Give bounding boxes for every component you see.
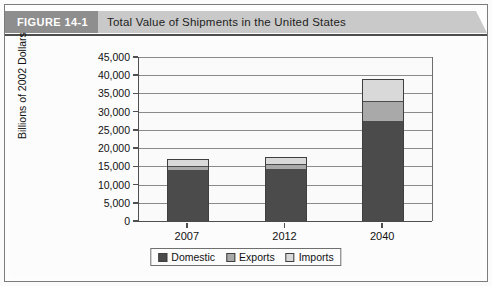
legend-item-imports[interactable]: Imports (286, 251, 334, 263)
x-axis-tick-mark (284, 223, 286, 228)
y-axis-tick-label: 30,000 (98, 106, 130, 118)
legend-item-exports[interactable]: Exports (226, 251, 275, 263)
plot-right-edge (432, 57, 433, 221)
figure-root: FIGURE 14-1 Total Value of Shipments in … (0, 0, 492, 286)
x-axis-tick-label: 2012 (272, 230, 296, 242)
legend-label: Exports (239, 251, 275, 263)
y-axis-tick-label: 15,000 (98, 160, 130, 172)
gridline (139, 57, 432, 58)
x-axis-tick-mark (381, 223, 383, 228)
x-axis-tick-label: 2007 (175, 230, 199, 242)
y-axis-tick-label: 10,000 (98, 179, 130, 191)
y-axis-tick-label: 25,000 (98, 124, 130, 136)
header-divider-rule (5, 34, 487, 36)
plot-area (138, 57, 432, 222)
y-axis-tick-label: 35,000 (98, 87, 130, 99)
bar-segment-domestic[interactable] (266, 170, 306, 222)
stacked-bar[interactable] (265, 157, 307, 221)
figure-number-tag: FIGURE 14-1 (5, 11, 98, 33)
x-axis-tick-label: 2040 (370, 230, 394, 242)
chart-legend: DomesticExportsImports (150, 248, 341, 266)
y-axis-tick-label: 40,000 (98, 69, 130, 81)
legend-label: Imports (299, 251, 334, 263)
figure-title-bar: Total Value of Shipments in the United S… (98, 11, 487, 33)
bar-segment-domestic[interactable] (363, 122, 403, 222)
chart-card: Billions of 2002 Dollars 05,00010,00015,… (10, 41, 482, 277)
legend-item-domestic[interactable]: Domestic (158, 251, 215, 263)
bar-segment-imports[interactable] (363, 80, 403, 103)
y-axis-tick-label: 0 (124, 215, 130, 227)
y-axis-tick-label: 20,000 (98, 142, 130, 154)
legend-label: Domestic (171, 251, 215, 263)
y-axis-title: Billions of 2002 Dollars (16, 32, 28, 139)
legend-swatch-domestic (158, 253, 167, 262)
bar-segment-imports[interactable] (266, 158, 306, 165)
x-axis-tick-mark (186, 223, 188, 228)
stacked-bar[interactable] (362, 79, 404, 221)
gridline (139, 75, 432, 76)
bar-segment-exports[interactable] (363, 102, 403, 121)
header-notch-decoration (476, 11, 487, 33)
figure-title: Total Value of Shipments in the United S… (98, 16, 346, 28)
legend-swatch-imports (286, 253, 295, 262)
stacked-bar[interactable] (167, 159, 209, 221)
y-axis-tick-label: 45,000 (98, 51, 130, 63)
y-axis-tick-label: 5,000 (104, 197, 130, 209)
figure-header: FIGURE 14-1 Total Value of Shipments in … (5, 11, 487, 33)
bar-segment-domestic[interactable] (168, 171, 208, 222)
legend-swatch-exports (226, 253, 235, 262)
